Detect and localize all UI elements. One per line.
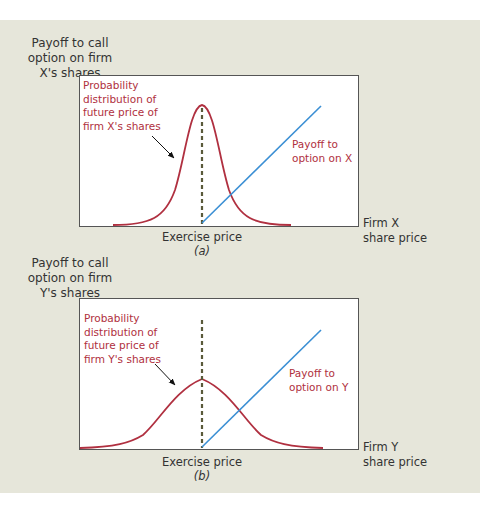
- panel-b-curves: [80, 320, 323, 448]
- panel-b-annotation-arrow: [155, 364, 175, 385]
- panel-a-payoff-line: [202, 106, 321, 223]
- panel-b-payoff-line: [202, 330, 321, 447]
- panel-a-annotation-arrow: [152, 136, 174, 158]
- chart-graphics: [0, 0, 499, 514]
- panel-a-curves: [113, 105, 321, 225]
